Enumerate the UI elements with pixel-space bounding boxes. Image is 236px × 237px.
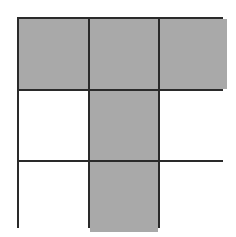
- shaded-cell-r1c2: [90, 19, 158, 89]
- empty-cell-r2c3: [160, 91, 227, 160]
- shaded-cell-r1c3: [160, 19, 227, 89]
- empty-cell-r3c3: [160, 162, 227, 232]
- empty-cell-r3c1: [19, 162, 88, 232]
- shaded-cell-r2c2: [90, 91, 158, 160]
- shaded-cell-r1c1: [19, 19, 88, 89]
- grid-3x3: [17, 17, 223, 228]
- empty-cell-r2c1: [19, 91, 88, 160]
- shaded-cell-r3c2: [90, 162, 158, 232]
